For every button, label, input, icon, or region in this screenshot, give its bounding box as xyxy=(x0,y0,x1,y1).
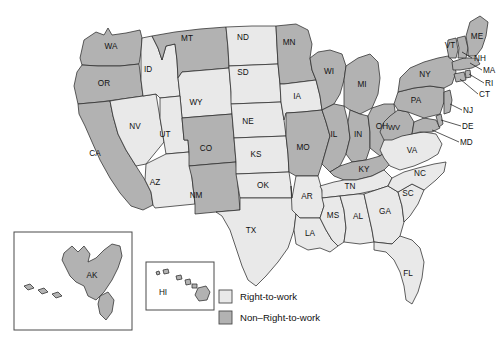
label-FL: FL xyxy=(403,269,413,278)
state-TX[interactable] xyxy=(216,198,296,286)
label-WA: WA xyxy=(105,42,118,51)
state-FL[interactable] xyxy=(374,236,424,304)
states-layer xyxy=(74,16,488,304)
label-NH: NH xyxy=(474,54,486,63)
label-AR: AR xyxy=(301,192,312,201)
label-MN: MN xyxy=(283,38,296,47)
alaska-inset: AK xyxy=(14,232,132,330)
label-AK: AK xyxy=(87,271,98,280)
legend-swatch-rtw xyxy=(219,290,232,303)
label-UT: UT xyxy=(160,130,171,139)
leader-CT xyxy=(460,79,478,94)
label-WV: WV xyxy=(388,123,401,132)
state-NJ[interactable] xyxy=(444,90,452,114)
legend-swatch-nrtw xyxy=(219,311,232,324)
label-IL: IL xyxy=(331,130,338,139)
label-TX: TX xyxy=(246,226,257,235)
label-NE: NE xyxy=(242,117,254,126)
hawaii-inset: HI xyxy=(146,262,214,310)
state-NM[interactable] xyxy=(189,162,240,214)
label-LA: LA xyxy=(305,229,316,238)
leader-NJ xyxy=(450,104,462,110)
leader-RI xyxy=(469,74,484,83)
state-WY[interactable] xyxy=(178,68,232,118)
label-VT: VT xyxy=(445,41,455,50)
state-NE[interactable] xyxy=(231,102,286,138)
label-OH: OH xyxy=(376,122,388,131)
state-KS[interactable] xyxy=(234,136,289,174)
label-CO: CO xyxy=(200,144,212,153)
label-DE: DE xyxy=(462,122,474,131)
label-OR: OR xyxy=(98,79,110,88)
state-ND[interactable] xyxy=(226,26,278,66)
label-KS: KS xyxy=(251,150,262,159)
label-NY: NY xyxy=(419,70,431,79)
label-PA: PA xyxy=(411,96,422,105)
label-AZ: AZ xyxy=(150,178,160,187)
state-RI[interactable] xyxy=(465,70,471,78)
state-CT[interactable] xyxy=(454,72,466,82)
label-VA: VA xyxy=(407,146,418,155)
label-AL: AL xyxy=(353,212,363,221)
label-MT: MT xyxy=(181,34,193,43)
label-MA: MA xyxy=(483,66,496,75)
label-GA: GA xyxy=(379,207,391,216)
label-NC: NC xyxy=(414,169,426,178)
label-NJ: NJ xyxy=(463,106,473,115)
label-TN: TN xyxy=(345,182,356,191)
label-HI: HI xyxy=(159,288,167,297)
label-NV: NV xyxy=(129,122,141,131)
label-MI: MI xyxy=(357,80,366,89)
label-KY: KY xyxy=(359,165,370,174)
label-WY: WY xyxy=(189,98,203,107)
label-CA: CA xyxy=(89,149,101,158)
label-ME: ME xyxy=(471,32,484,41)
label-WI: WI xyxy=(324,67,334,76)
label-MO: MO xyxy=(296,143,309,152)
legend-label-rtw: Right-to-work xyxy=(240,291,297,302)
label-CT: CT xyxy=(479,90,490,99)
legend: Right-to-work Non–Right-to-work xyxy=(219,290,320,324)
state-MN[interactable] xyxy=(276,24,316,84)
state-CO[interactable] xyxy=(182,114,236,166)
label-IN: IN xyxy=(354,130,362,139)
hawaii-inset-border xyxy=(146,262,214,310)
label-NM: NM xyxy=(190,191,203,200)
leader-DE xyxy=(441,120,461,126)
us-right-to-work-map: WA OR CA NV ID MT WY UT AZ CO NM ND SD N… xyxy=(0,0,500,347)
label-OK: OK xyxy=(257,181,269,190)
label-IA: IA xyxy=(293,92,301,101)
label-SD: SD xyxy=(237,68,248,77)
legend-label-nrtw: Non–Right-to-work xyxy=(240,312,320,323)
label-SC: SC xyxy=(402,189,413,198)
label-MS: MS xyxy=(327,211,340,220)
label-RI: RI xyxy=(485,79,493,88)
label-ND: ND xyxy=(237,33,249,42)
label-MD: MD xyxy=(460,138,473,147)
label-ID: ID xyxy=(144,65,152,74)
